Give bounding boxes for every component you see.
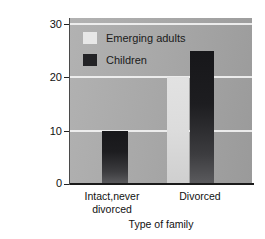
gridline-30 [70,23,252,25]
gridline-20 [70,76,252,78]
legend-item-emerging-adults: Emerging adults [83,32,186,44]
y-tick-label-20: 20 [40,72,62,83]
x-tick-label-intact-line-2: divorced [68,203,156,216]
y-axis-title: Percent of children and emerging adults … [0,0,1,190]
x-tick-label-divorced: Divorced [160,190,240,203]
x-tick-label-intact-line-1: Intact,never [68,190,156,203]
x-tick-label-intact: Intact,never divorced [68,190,156,216]
y-tick-label-0: 0 [40,178,62,189]
chart-figure: Percent of children and emerging adults … [0,0,265,239]
legend: Emerging adults Children [83,32,186,76]
bar-divorced-children [190,51,214,183]
y-tick-label-30: 30 [40,19,62,30]
gridline-10 [70,130,252,132]
legend-label-emerging-adults: Emerging adults [106,32,186,44]
legend-swatch-emerging-adults [83,32,97,44]
bar-divorced-emerging-adults [167,77,189,183]
y-axis-ticks: 30 20 10 0 [40,0,62,239]
bar-intact-children [102,131,128,183]
x-tick-label-divorced-line-1: Divorced [160,190,240,203]
legend-swatch-children [83,54,97,66]
plot-area: Emerging adults Children [70,18,252,183]
legend-label-children: Children [106,54,147,66]
x-axis-line [70,183,254,185]
x-axis-title: Type of family [70,218,252,230]
legend-item-children: Children [83,54,186,66]
y-tick-label-10: 10 [40,126,62,137]
